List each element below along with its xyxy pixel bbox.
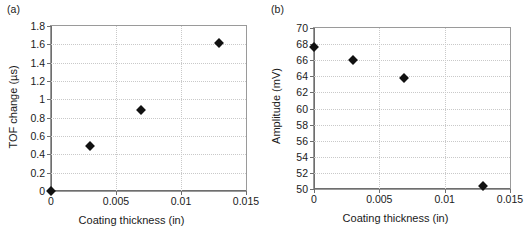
x-axis-tick-label: 0.005 bbox=[103, 195, 129, 207]
y-axis-tick bbox=[310, 92, 314, 93]
gridline-horizontal bbox=[314, 125, 510, 126]
data-point-marker bbox=[85, 141, 95, 151]
gridline-horizontal bbox=[314, 60, 510, 61]
y-axis-tick bbox=[47, 136, 51, 137]
data-point-marker bbox=[214, 38, 224, 48]
x-axis-tick-label: 0.005 bbox=[366, 193, 392, 205]
gridline-horizontal bbox=[51, 136, 246, 137]
y-axis-tick-label: 58 bbox=[296, 119, 308, 131]
gridline-horizontal bbox=[314, 173, 510, 174]
y-axis-tick bbox=[47, 154, 51, 155]
gridline-vertical bbox=[379, 28, 380, 189]
y-axis-tick bbox=[47, 63, 51, 64]
y-axis-tick bbox=[47, 44, 51, 45]
panel-b-y-axis-title: Amplitude (mV) bbox=[270, 46, 282, 166]
gridline-horizontal bbox=[314, 92, 510, 93]
y-axis-tick-label: 1 bbox=[39, 93, 45, 105]
panel-b-x-axis-title: Coating thickness (in) bbox=[264, 212, 527, 224]
panel-b-plot-area: 505254565860626466687000.0050.010.015 bbox=[313, 27, 511, 190]
y-axis-tick-label: 0.8 bbox=[30, 112, 45, 124]
y-axis-tick bbox=[47, 26, 51, 27]
gridline-vertical bbox=[181, 26, 182, 191]
panel-b: (b) 505254565860626466687000.0050.010.01… bbox=[264, 0, 527, 236]
gridline-horizontal bbox=[314, 44, 510, 45]
x-axis-tick-label: 0.01 bbox=[434, 193, 454, 205]
gridline-vertical bbox=[445, 28, 446, 189]
gridline-horizontal bbox=[51, 154, 246, 155]
y-axis-tick bbox=[310, 76, 314, 77]
y-axis-tick bbox=[47, 99, 51, 100]
y-axis-tick-label: 60 bbox=[296, 103, 308, 115]
panel-b-label: (b) bbox=[271, 3, 284, 15]
y-axis-tick bbox=[310, 109, 314, 110]
gridline-horizontal bbox=[51, 173, 246, 174]
panel-a-x-axis-title: Coating thickness (in) bbox=[0, 214, 263, 226]
gridline-horizontal bbox=[51, 118, 246, 119]
panel-a-x-axis-line bbox=[51, 190, 246, 191]
gridline-horizontal bbox=[51, 63, 246, 64]
gridline-horizontal bbox=[314, 76, 510, 77]
y-axis-tick-label: 0.2 bbox=[30, 167, 45, 179]
x-axis-tick-label: 0.015 bbox=[233, 195, 259, 207]
y-axis-tick bbox=[310, 28, 314, 29]
gridline-horizontal bbox=[314, 109, 510, 110]
panel-a-y-axis-line bbox=[51, 26, 52, 191]
y-axis-tick-label: 52 bbox=[296, 167, 308, 179]
y-axis-tick-label: 64 bbox=[296, 70, 308, 82]
panel-a: (a) 00.20.40.60.811.21.41.61.800.0050.01… bbox=[0, 0, 263, 236]
y-axis-tick-label: 62 bbox=[296, 86, 308, 98]
gridline-horizontal bbox=[51, 99, 246, 100]
x-axis-tick-label: 0 bbox=[311, 193, 317, 205]
y-axis-tick-label: 56 bbox=[296, 135, 308, 147]
data-point-marker bbox=[478, 181, 488, 191]
panel-a-y-axis-title: TOF change (µs) bbox=[7, 47, 19, 167]
gridline-horizontal bbox=[314, 141, 510, 142]
data-point-marker bbox=[348, 55, 358, 65]
y-axis-tick-label: 1.2 bbox=[30, 75, 45, 87]
y-axis-tick bbox=[310, 141, 314, 142]
y-axis-tick-label: 54 bbox=[296, 151, 308, 163]
y-axis-tick bbox=[47, 173, 51, 174]
y-axis-tick-label: 0.6 bbox=[30, 130, 45, 142]
y-axis-tick bbox=[310, 157, 314, 158]
y-axis-tick bbox=[310, 125, 314, 126]
y-axis-tick-label: 1.4 bbox=[30, 57, 45, 69]
y-axis-tick-label: 1.8 bbox=[30, 20, 45, 32]
y-axis-tick-label: 1.6 bbox=[30, 38, 45, 50]
data-point-marker bbox=[399, 73, 409, 83]
panel-a-label: (a) bbox=[7, 3, 20, 15]
data-point-marker bbox=[136, 105, 146, 115]
panel-a-plot-area: 00.20.40.60.811.21.41.61.800.0050.010.01… bbox=[50, 25, 247, 192]
figure-container: (a) 00.20.40.60.811.21.41.61.800.0050.01… bbox=[0, 0, 527, 236]
y-axis-tick-label: 70 bbox=[296, 22, 308, 34]
x-axis-tick-label: 0.01 bbox=[171, 195, 191, 207]
gridline-horizontal bbox=[51, 81, 246, 82]
gridline-vertical bbox=[116, 26, 117, 191]
y-axis-tick-label: 50 bbox=[296, 183, 308, 195]
x-axis-tick-label: 0.015 bbox=[497, 193, 523, 205]
y-axis-tick-label: 0 bbox=[39, 185, 45, 197]
y-axis-tick-label: 66 bbox=[296, 54, 308, 66]
y-axis-tick bbox=[310, 173, 314, 174]
y-axis-tick bbox=[47, 118, 51, 119]
y-axis-tick-label: 0.4 bbox=[30, 148, 45, 160]
y-axis-tick bbox=[47, 81, 51, 82]
y-axis-tick bbox=[310, 60, 314, 61]
gridline-horizontal bbox=[314, 157, 510, 158]
x-axis-tick-label: 0 bbox=[48, 195, 54, 207]
y-axis-tick-label: 68 bbox=[296, 38, 308, 50]
